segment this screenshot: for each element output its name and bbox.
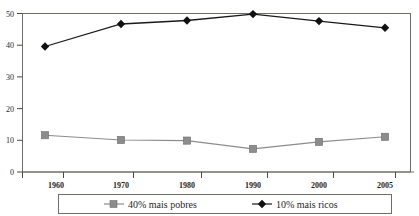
square-marker [41, 132, 48, 139]
square-marker [249, 145, 256, 152]
square-marker [117, 136, 124, 143]
chart-container: 50 40 30 20 10 0 1960 1970 1980 1990 200… [0, 0, 419, 216]
y-axis-label-50: 50 [6, 10, 14, 19]
legend-label-richest: 10% mais ricos [276, 199, 338, 210]
chart-legend: 40% mais pobres 10% mais ricos [59, 195, 392, 214]
y-axis-label-10: 10 [6, 136, 14, 145]
x-axis-label-1980: 1980 [179, 181, 195, 190]
plot-area-border [23, 14, 411, 173]
x-axis-ticks [23, 172, 396, 178]
x-axis-label-2000: 2000 [311, 181, 327, 190]
y-axis-ticks [17, 14, 23, 173]
y-axis-labels: 50 40 30 20 10 0 [6, 10, 14, 178]
y-axis-label-20: 20 [6, 105, 14, 114]
x-axis-label-1970: 1970 [113, 181, 129, 190]
square-marker [381, 133, 388, 140]
y-axis-label-40: 40 [6, 41, 14, 50]
legend-label-poorest: 40% mais pobres [128, 199, 197, 210]
square-marker [315, 138, 322, 145]
y-axis-label-0: 0 [10, 168, 14, 177]
x-axis-label-1990: 1990 [245, 181, 261, 190]
y-axis-label-30: 30 [6, 73, 14, 82]
square-marker-icon [110, 201, 117, 208]
square-marker [183, 137, 190, 144]
x-axis-label-1960: 1960 [48, 181, 64, 190]
line-chart: 50 40 30 20 10 0 1960 1970 1980 1990 200… [0, 0, 419, 216]
x-axis-label-2005: 2005 [377, 181, 393, 190]
plot-frame [23, 14, 411, 173]
x-axis-labels: 1960 1970 1980 1990 2000 2005 [48, 181, 393, 190]
